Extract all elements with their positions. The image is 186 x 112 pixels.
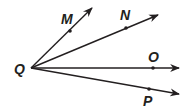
point-label-n: N: [120, 7, 131, 23]
point-label-o: O: [148, 49, 159, 65]
point-p: [147, 87, 151, 91]
angle-rays-diagram: Q M N O P: [0, 0, 186, 112]
vertex-label-q: Q: [14, 61, 25, 77]
ray-qp: [31, 68, 179, 94]
point-n: [124, 26, 128, 30]
ray-qn: [31, 15, 158, 68]
ray-qo: [31, 66, 179, 70]
point-label-p: P: [143, 93, 153, 109]
point-label-m: M: [61, 11, 73, 27]
point-m: [68, 29, 72, 33]
point-o: [151, 66, 155, 70]
